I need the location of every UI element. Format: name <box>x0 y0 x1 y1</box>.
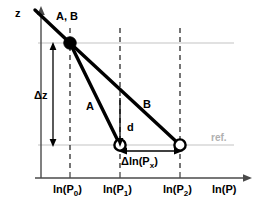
curve-segment-a <box>70 43 120 145</box>
reference-level-label: ref. <box>211 132 227 143</box>
annotation-d <box>117 98 124 147</box>
annotation-delta-z <box>50 42 57 147</box>
marker-common-origin <box>64 37 76 49</box>
delta-z-arrowhead-down <box>50 139 57 147</box>
x-tick-label-p0-close: ) <box>78 183 82 195</box>
x-tick-label-p1-close: ) <box>128 183 132 195</box>
x-tick-label-p0-base: ln(P <box>53 183 74 195</box>
x-tick-label-p2-close: ) <box>188 183 192 195</box>
d-label: d <box>127 121 134 133</box>
x-tick-label-p1: ln(P1) <box>103 183 132 198</box>
x-tick-label-p2: ln(P2) <box>163 183 192 198</box>
x-tick-label-p2-base: ln(P <box>163 183 184 195</box>
x-axis-arrowhead <box>243 174 252 182</box>
y-axis-label: z <box>15 7 21 19</box>
diagram-canvas: z A, B A B Δz d Δln(Px) ref. ln(P0) ln(P… <box>0 0 258 202</box>
annotation-delta-ln-px <box>118 148 183 155</box>
curve-segment-b <box>70 43 180 145</box>
x-axis-label: ln(P) <box>212 183 237 195</box>
x-tick-label-p0: ln(P0) <box>53 183 82 198</box>
delta-z-label: Δz <box>34 89 48 101</box>
curve-label-b: B <box>143 98 151 110</box>
curve-label-ab: A, B <box>56 10 78 22</box>
profile-curves <box>35 10 180 145</box>
delta-ln-px-label: Δln(Px) <box>121 155 158 170</box>
curve-label-a: A <box>86 100 94 112</box>
delta-ln-px-base: Δln(P <box>121 155 150 167</box>
x-tick-label-p1-base: ln(P <box>103 183 124 195</box>
guide-lines <box>38 43 234 145</box>
figure-container: z A, B A B Δz d Δln(Px) ref. ln(P0) ln(P… <box>0 0 258 202</box>
delta-ln-px-close: ) <box>154 155 158 167</box>
